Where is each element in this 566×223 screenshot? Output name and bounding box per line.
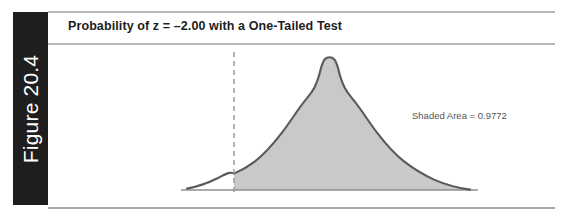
distribution-chart-svg — [48, 44, 555, 207]
shaded-area-region — [234, 57, 478, 190]
figure-number-tab: Figure 20.4 — [13, 12, 48, 205]
figure-container: Figure 20.4 Probability of z = –2.00 wit… — [0, 0, 566, 223]
figure-title: Probability of z = –2.00 with a One-Tail… — [68, 19, 342, 33]
bottom-divider — [48, 207, 555, 209]
top-divider — [48, 11, 555, 13]
normal-distribution-plot: Shaded Area = 0.9772 – ∞ ∞ z = –2.00 — [48, 44, 555, 207]
figure-number-label: Figure 20.4 — [19, 54, 43, 162]
shaded-area-annotation: Shaded Area = 0.9772 — [412, 110, 507, 121]
